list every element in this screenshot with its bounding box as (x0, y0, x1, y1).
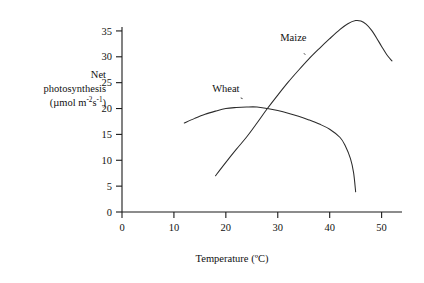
series-labels-layer: WheatMaize (212, 32, 307, 98)
x-tick-label-10: 10 (169, 222, 180, 233)
y-tick-label-35: 35 (102, 26, 113, 37)
leader-line-wheat (241, 98, 243, 99)
series-label-wheat: Wheat (212, 83, 239, 94)
x-tick-label-40: 40 (324, 222, 335, 233)
y-tick-label-10: 10 (102, 155, 113, 166)
x-tick-label-30: 30 (273, 222, 284, 233)
chart-figure: Net photosynthesis (µmol m-2s-1) 0510152… (0, 0, 424, 283)
y-tick-label-15: 15 (102, 129, 113, 140)
x-axis-title: Temperature (ºC) (196, 253, 269, 265)
ticks-layer: 0510152025303501020304050 (102, 26, 387, 233)
y-tick-label-0: 0 (107, 207, 112, 218)
axes-layer (122, 27, 402, 212)
y-tick-label-25: 25 (102, 77, 113, 88)
y-tick-label-30: 30 (102, 51, 113, 62)
photosynthesis-temperature-line-chart: Net photosynthesis (µmol m-2s-1) 0510152… (0, 0, 424, 283)
units-prefix: (µmol m (50, 97, 87, 109)
y-axis-title: Net photosynthesis (µmol m-2s-1) (44, 69, 107, 109)
x-tick-label-0: 0 (119, 222, 124, 233)
series-label-maize: Maize (280, 32, 307, 43)
leader-line-maize (304, 53, 305, 55)
y-axis-title-line2: photosynthesis (44, 83, 106, 94)
y-tick-label-5: 5 (107, 181, 112, 192)
x-tick-label-20: 20 (221, 222, 232, 233)
x-tick-label-50: 50 (376, 222, 387, 233)
series-curve-wheat (184, 107, 355, 192)
curves-layer (184, 20, 392, 191)
y-axis-title-units: (µmol m-2s-1) (50, 96, 107, 109)
y-tick-label-20: 20 (102, 103, 113, 114)
